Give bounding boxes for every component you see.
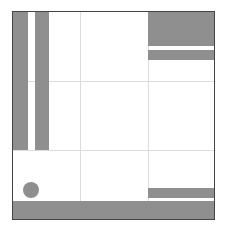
bottom-right-stripe [148, 188, 214, 198]
bottom-bar [13, 201, 214, 219]
top-right-stripe [148, 50, 214, 60]
circle-marker [23, 182, 39, 198]
left-bar-2 [35, 12, 49, 150]
top-right-block [148, 12, 214, 46]
puzzle-board [12, 11, 215, 220]
grid-line-horizontal [13, 150, 214, 151]
left-bar-1 [13, 12, 28, 150]
grid-line-vertical [80, 12, 81, 219]
